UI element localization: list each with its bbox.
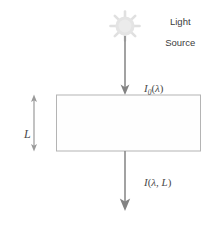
light-source-label-line2: Source (165, 37, 195, 48)
light-source-label-line1: Light (170, 16, 191, 27)
incident-intensity-label: I0(λ) (133, 70, 164, 110)
incident-light-arrow (121, 36, 130, 95)
optical-absorption-diagram: Light Source I0(λ) L I(λ, L) (0, 0, 208, 228)
thickness-label: L (12, 115, 31, 155)
thickness-double-arrow (31, 95, 37, 152)
transmitted-intensity-label: I(λ, L) (133, 164, 171, 201)
absorbing-medium-rectangle (57, 95, 201, 151)
transmitted-light-arrow (120, 151, 130, 211)
light-source-label: Light Source (146, 6, 204, 59)
transmitted-comma: , (156, 176, 159, 188)
thickness-label-text: L (24, 127, 31, 141)
incident-close-paren: ) (160, 82, 164, 94)
transmitted-close-paren: ) (168, 176, 172, 188)
